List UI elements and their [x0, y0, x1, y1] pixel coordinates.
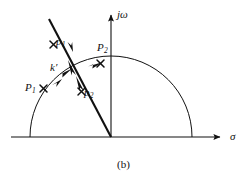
root-locus-plot [0, 0, 247, 179]
label-gain-k-prime: k′ [50, 62, 57, 73]
root-locus-figure: p1 P1 P2 p2 k′ jω σ (b) [0, 0, 247, 179]
arc-direction-arrows [57, 62, 103, 77]
figure-caption: (b) [0, 158, 247, 170]
label-imaginary-axis: jω [117, 9, 128, 20]
label-p1-lowercase: p1 [56, 36, 65, 48]
label-P2-uppercase: P2 [97, 42, 108, 54]
diagonal-direction-arrows [68, 60, 84, 92]
arc-arrow-left [57, 69, 72, 78]
label-p2-lowercase: p2 [84, 87, 93, 99]
breakaway-arrow-up [68, 42, 74, 52]
label-P1-uppercase: P1 [25, 82, 36, 94]
label-real-axis: σ [230, 131, 235, 142]
